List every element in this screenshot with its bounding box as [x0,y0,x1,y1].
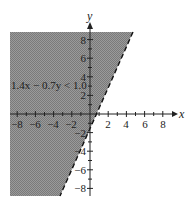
x-tick-label: 8 [160,118,166,130]
x-tick-label: 6 [142,118,148,130]
y-tick-label: 6 [81,52,87,64]
y-tick-label: −4 [74,145,86,157]
y-axis-label: y [86,9,93,23]
inequality-label: 1.4x − 0.7y < 1.0 [11,79,87,91]
y-tick-label: −6 [74,164,86,176]
x-tick-label: 2 [105,118,111,130]
y-tick-label: −8 [74,182,86,194]
y-tick-label: −2 [74,127,86,139]
x-tick-label: 4 [123,118,129,130]
x-axis-arrow-icon [172,111,178,117]
y-tick-label: 8 [81,34,87,46]
x-tick-label: −4 [47,118,59,130]
x-tick-label: −8 [11,118,23,130]
x-axis-label: x [178,107,185,121]
y-axis-arrow-icon [87,22,93,29]
inequality-graph: x y [0,0,190,203]
x-tick-label: −6 [29,118,41,130]
